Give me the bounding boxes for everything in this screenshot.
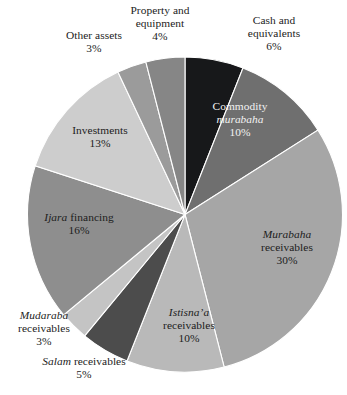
slice-label-investments: Investments 13% — [48, 124, 152, 150]
slice-label-percent: 16% — [24, 224, 134, 237]
slice-label-text-line1: Mudaraba — [1, 309, 87, 322]
slice-label-ijara-financing: Ijara financing 16% — [24, 211, 134, 237]
slice-label-percent: 6% — [222, 40, 326, 53]
slice-label-text-line2: equipment — [112, 17, 208, 30]
slice-label-percent: 3% — [42, 42, 146, 55]
slice-label-rest-word: financing — [70, 211, 113, 223]
slice-label-text-line1: Property and — [112, 4, 208, 17]
slice-label-istisnaa-receivables: Istisna’a receivables 10% — [142, 306, 236, 344]
slice-label-percent: 5% — [22, 368, 146, 381]
slice-label-percent: 13% — [48, 137, 152, 150]
slice-label-text-line2: receivables — [142, 319, 236, 332]
slice-label-percent: 30% — [240, 254, 334, 267]
slice-label-percent: 10% — [142, 332, 236, 345]
slice-label-other-assets: Other assets 3% — [42, 29, 146, 55]
slice-label-text-line1: Other assets — [42, 29, 146, 42]
slice-label-text-line2: receivables — [1, 322, 87, 335]
slice-label-text-line1: Ijara financing — [24, 211, 134, 224]
slice-label-percent: 3% — [1, 335, 87, 348]
slice-label-text-line1: Investments — [48, 124, 152, 137]
slice-label-text-line1: Salam receivables — [22, 355, 146, 368]
slice-label-murabaha-receivables: Murabaha receivables 30% — [240, 228, 334, 266]
slice-label-mudaraba-receivables: Mudaraba receivables 3% — [1, 309, 87, 347]
slice-label-text-line2: receivables — [240, 241, 334, 254]
slice-label-rest-word: receivables — [74, 355, 126, 367]
slice-label-italic-word: Ijara — [44, 211, 67, 223]
slice-label-commodity-murabaha: Commodity murabaha 10% — [192, 100, 288, 138]
slice-label-text-line1: Istisna’a — [142, 306, 236, 319]
slice-label-text-line1: Murabaha — [240, 228, 334, 241]
slice-label-italic-word: Salam — [42, 355, 71, 367]
slice-label-text-line1: Cash and — [222, 14, 326, 27]
slice-label-cash-equivalents: Cash and equivalents 6% — [222, 14, 326, 52]
slice-label-text-line2: equivalents — [222, 27, 326, 40]
slice-label-text-line2: murabaha — [192, 113, 288, 126]
slice-label-percent: 10% — [192, 126, 288, 139]
pie-chart-figure: Property and equipment 4% Cash and equiv… — [0, 0, 347, 395]
slice-label-text-line1: Commodity — [192, 100, 288, 113]
slice-label-salam-receivables: Salam receivables 5% — [22, 355, 146, 381]
